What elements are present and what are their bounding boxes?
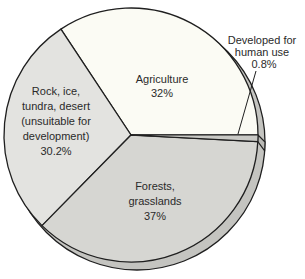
- land-use-pie-figure: Agriculture 32% Rock, ice, tundra, deser…: [0, 0, 305, 279]
- agriculture-label-line1: Agriculture: [136, 73, 189, 85]
- developed-label-value: 0.8%: [251, 58, 276, 70]
- forests-label-value: 37%: [144, 210, 166, 222]
- developed-label-line2: human use: [235, 46, 289, 58]
- forests-label-line2: grasslands: [128, 195, 182, 207]
- rock-label-line4: development): [23, 130, 90, 142]
- developed-label-line1: Developed for: [228, 34, 297, 46]
- rock-label-line3: (unsuitable for: [21, 115, 91, 127]
- agriculture-label-value: 32%: [151, 87, 173, 99]
- rock-label-line1: Rock, ice,: [32, 85, 80, 97]
- forests-label-line1: Forests,: [135, 180, 175, 192]
- rock-label-line2: tundra, desert: [22, 100, 90, 112]
- rock-label-value: 30.2%: [40, 145, 71, 157]
- pie-chart-canvas: Agriculture 32% Rock, ice, tundra, deser…: [0, 0, 305, 279]
